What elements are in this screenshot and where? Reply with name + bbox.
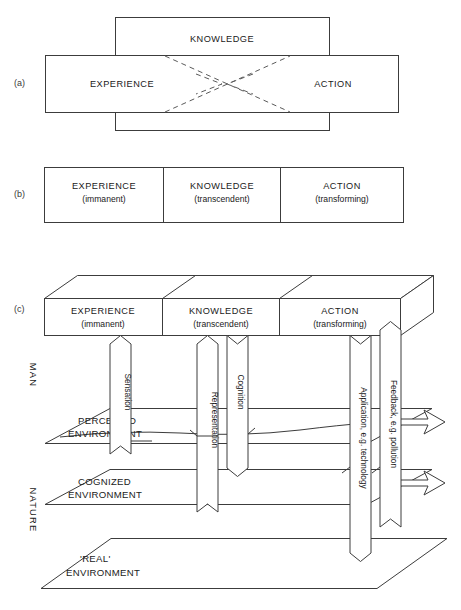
figure-canvas: (a) EXPERIENCE KNOWLEDGE ACTION (b) EXPE… (0, 0, 461, 610)
panel-a-experience-title: EXPERIENCE (90, 79, 154, 89)
diagram-svg: (a) EXPERIENCE KNOWLEDGE ACTION (b) EXPE… (0, 0, 461, 610)
panel-b-action-subtitle: (transforming) (315, 194, 369, 204)
plane-real-label-line1: 'REAL' (80, 553, 111, 564)
flow-feedback-label: Feedback, e.g. pollution (389, 380, 399, 468)
flow-feedback: Feedback, e.g. pollution (380, 322, 401, 528)
flow-cognition-label: Cognition (236, 374, 246, 409)
panel-a: (a) EXPERIENCE KNOWLEDGE ACTION (14, 18, 399, 131)
plane-cognized-label-line2: ENVIRONMENT (68, 489, 142, 500)
flow-representation-label: Representation (210, 392, 220, 449)
panel-c-slab-front-face (45, 299, 401, 336)
panel-c-label: (c) (14, 304, 25, 314)
panel-a-knowledge-title: KNOWLEDGE (190, 34, 254, 44)
panel-b-experience-title: EXPERIENCE (72, 181, 136, 191)
panel-c-action-title: ACTION (321, 306, 359, 316)
plane-real-environment: 'REAL' ENVIRONMENT (41, 539, 447, 589)
flow-cognition: Cognition (227, 336, 248, 477)
flow-representation: Representation (197, 336, 220, 513)
panel-b-action-title: ACTION (323, 181, 361, 191)
plane-real-label-line2: ENVIRONMENT (66, 567, 140, 578)
panel-c-knowledge-subtitle: (transcendent) (193, 319, 249, 329)
panel-a-action-title: ACTION (314, 79, 352, 89)
panel-c-slab-top-face (45, 276, 434, 299)
flow-sensation: Sensation (110, 336, 133, 455)
connector-cognition-plane (248, 428, 255, 434)
panel-c-experience-title: EXPERIENCE (71, 306, 135, 316)
side-label-man: MAN (28, 363, 39, 387)
panel-b-label: (b) (14, 189, 25, 199)
panel-c-experience-subtitle: (immanent) (81, 319, 125, 329)
panel-b-knowledge-subtitle: (transcendent) (194, 194, 250, 204)
flow-sensation-label: Sensation (123, 374, 133, 411)
side-label-nature: NATURE (28, 487, 39, 532)
flow-application-label: Application, e.g. technology (359, 387, 369, 489)
panel-c-action-subtitle: (transforming) (313, 319, 367, 329)
panel-b-knowledge-title: KNOWLEDGE (190, 181, 254, 191)
panel-c: (c) EXPERIENCE (immanent) KNOWLEDGE (tra… (14, 276, 447, 589)
panel-b-experience-subtitle: (immanent) (82, 194, 126, 204)
panel-b: (b) EXPERIENCE (immanent) KNOWLEDGE (tra… (14, 168, 404, 223)
panel-a-label: (a) (14, 78, 25, 88)
flow-application: Application, e.g. technology (350, 336, 371, 562)
plane-cognized-label-line1: COGNIZED (78, 476, 131, 487)
panel-c-knowledge-title: KNOWLEDGE (189, 306, 253, 316)
